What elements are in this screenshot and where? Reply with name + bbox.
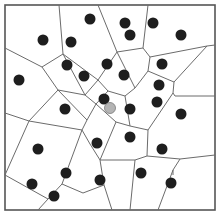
site-dot — [33, 144, 44, 155]
voronoi-diagram — [0, 0, 222, 216]
site-dot — [92, 138, 103, 149]
site-dot — [125, 104, 136, 115]
site-dot — [60, 104, 71, 115]
site-dot — [136, 168, 147, 179]
site-dot — [95, 175, 106, 186]
site-dot — [62, 60, 73, 71]
highlighted-site — [105, 103, 116, 114]
site-dot — [85, 14, 96, 25]
site-dot — [176, 109, 187, 120]
highlighted-site-dot — [105, 103, 116, 114]
site-dot — [152, 97, 163, 108]
site-dot — [79, 71, 90, 82]
site-dot — [49, 191, 60, 202]
site-dot — [125, 132, 136, 143]
site-dot — [102, 59, 113, 70]
site-dot — [66, 37, 77, 48]
site-dot — [119, 70, 130, 81]
site-dot — [157, 59, 168, 70]
site-dot — [120, 18, 131, 29]
site-dot — [166, 178, 177, 189]
site-dot — [125, 30, 136, 41]
site-dot — [38, 35, 49, 46]
site-dot — [157, 144, 168, 155]
site-dot — [148, 18, 159, 29]
site-dot — [14, 75, 25, 86]
site-dot — [154, 80, 165, 91]
site-dot — [176, 30, 187, 41]
site-dot — [61, 168, 72, 179]
site-dot — [27, 179, 38, 190]
